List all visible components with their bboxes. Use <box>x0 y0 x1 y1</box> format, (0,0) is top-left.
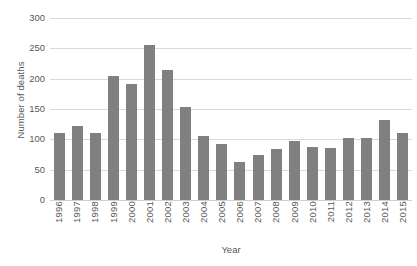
y-axis-tick-label: 200 <box>29 74 45 84</box>
bar-slot <box>104 18 122 200</box>
bar <box>216 144 227 200</box>
bar <box>271 149 282 200</box>
bar-slot <box>394 18 412 200</box>
x-label-slot: 2011 <box>321 201 339 241</box>
x-axis-tick-label: 2014 <box>380 201 390 223</box>
bar <box>379 120 390 200</box>
bar <box>180 107 191 200</box>
bar-chart: Number of deaths 050100150200250300 1996… <box>0 0 417 266</box>
x-axis-tick-label: 2002 <box>163 201 173 223</box>
bar-series <box>50 18 412 200</box>
x-axis-tick-label: 2011 <box>326 201 336 222</box>
bar-slot <box>177 18 195 200</box>
bar <box>162 70 173 200</box>
bar-slot <box>231 18 249 200</box>
x-axis-tick-label: 2004 <box>199 201 209 223</box>
x-label-slot: 1996 <box>50 201 68 241</box>
bar <box>343 138 354 200</box>
x-label-slot: 2010 <box>303 201 321 241</box>
x-label-slot: 2009 <box>285 201 303 241</box>
x-label-slot: 2015 <box>394 201 412 241</box>
bar <box>361 138 372 200</box>
x-axis-tick-label: 2007 <box>253 201 263 223</box>
x-label-slot: 1998 <box>86 201 104 241</box>
x-label-slot: 1999 <box>104 201 122 241</box>
bar-slot <box>122 18 140 200</box>
x-axis-tick-label: 1998 <box>90 201 100 223</box>
x-axis-tick-label: 2005 <box>217 201 227 223</box>
y-axis-tick-label: 0 <box>40 195 45 205</box>
y-axis-tick-label: 100 <box>29 135 45 145</box>
x-axis-tick-label: 2015 <box>398 201 408 223</box>
x-axis-tick-label: 2008 <box>271 201 281 223</box>
bar-slot <box>267 18 285 200</box>
bar-slot <box>376 18 394 200</box>
x-label-slot: 2014 <box>376 201 394 241</box>
y-axis-tick-label: 300 <box>29 13 45 23</box>
plot-area: 050100150200250300 <box>50 18 412 200</box>
x-label-slot: 2006 <box>231 201 249 241</box>
x-label-slot: 2003 <box>177 201 195 241</box>
x-axis-tick-label: 2009 <box>290 201 300 223</box>
x-label-slot: 2004 <box>195 201 213 241</box>
bar <box>397 133 408 200</box>
bar <box>325 148 336 200</box>
x-axis-tick-label: 2001 <box>145 201 155 223</box>
bar-slot <box>303 18 321 200</box>
x-axis-tick-label: 2013 <box>362 201 372 223</box>
y-axis-tick-label: 150 <box>29 104 45 114</box>
bar <box>90 133 101 200</box>
bar-slot <box>86 18 104 200</box>
x-axis-tick-label: 1999 <box>109 201 119 223</box>
bar <box>234 162 245 200</box>
bar <box>253 155 264 201</box>
x-axis-tick-label: 2010 <box>308 201 318 223</box>
bar <box>144 45 155 200</box>
x-axis-tick-label: 2003 <box>181 201 191 223</box>
x-axis-tick-label: 2006 <box>235 201 245 223</box>
x-label-slot: 2005 <box>213 201 231 241</box>
bar-slot <box>159 18 177 200</box>
y-axis-tick-label: 50 <box>34 165 45 175</box>
bar <box>307 147 318 200</box>
bar-slot <box>285 18 303 200</box>
x-label-slot: 2001 <box>140 201 158 241</box>
x-label-slot: 2000 <box>122 201 140 241</box>
bar-slot <box>195 18 213 200</box>
bar <box>72 126 83 200</box>
bar-slot <box>249 18 267 200</box>
bar-slot <box>68 18 86 200</box>
bar <box>126 84 137 200</box>
bar <box>289 141 300 200</box>
bar-slot <box>140 18 158 200</box>
x-label-slot: 2007 <box>249 201 267 241</box>
x-label-slot: 2008 <box>267 201 285 241</box>
bar <box>198 136 209 200</box>
x-label-slot: 2002 <box>159 201 177 241</box>
x-axis-tick-label: 1997 <box>72 201 82 223</box>
bar-slot <box>50 18 68 200</box>
x-axis-title: Year <box>50 244 412 255</box>
bar <box>108 76 119 200</box>
x-label-slot: 1997 <box>68 201 86 241</box>
x-axis-tick-label: 1996 <box>54 201 64 223</box>
x-label-slot: 2012 <box>340 201 358 241</box>
bar-slot <box>340 18 358 200</box>
bar-slot <box>213 18 231 200</box>
x-axis-tick-label: 2000 <box>127 201 137 223</box>
y-axis-title: Number of deaths <box>14 0 28 200</box>
y-axis-tick-label: 250 <box>29 44 45 54</box>
x-axis-tick-labels: 1996199719981999200020012002200320042005… <box>50 201 412 241</box>
bar-slot <box>321 18 339 200</box>
x-label-slot: 2013 <box>358 201 376 241</box>
bar-slot <box>358 18 376 200</box>
bar <box>54 133 65 200</box>
x-axis-tick-label: 2012 <box>344 201 354 223</box>
